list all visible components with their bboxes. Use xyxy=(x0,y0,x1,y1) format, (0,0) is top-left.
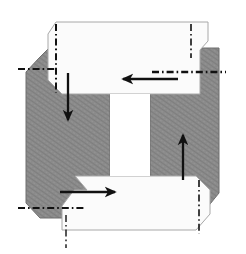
top-white-flap xyxy=(48,22,208,94)
center-white-opening xyxy=(110,94,150,176)
bottom-white-flap xyxy=(62,176,210,230)
diagram-canvas xyxy=(0,0,246,254)
paper-folding-diagram: Paper folding diagram Four interlocking … xyxy=(0,0,246,254)
